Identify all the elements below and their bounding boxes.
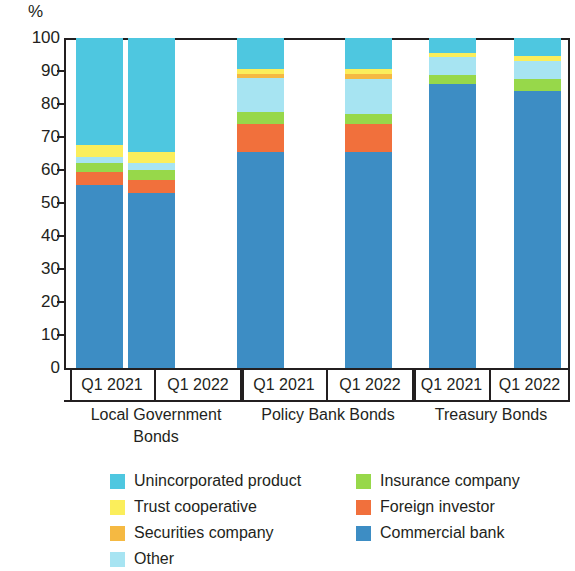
- legend-column-right: Insurance companyForeign investorCommerc…: [356, 468, 520, 546]
- bar-segment: [76, 163, 123, 171]
- bar-segment: [128, 170, 175, 180]
- x-axis-group-label: Local Government Bonds: [70, 404, 242, 448]
- legend-item[interactable]: Insurance company: [356, 468, 520, 494]
- bar-stack: [345, 38, 392, 368]
- bar-stack: [429, 38, 476, 368]
- y-axis-tick-mark: [57, 202, 65, 204]
- bar-stack: [128, 38, 175, 368]
- y-axis-tick-mark: [57, 136, 65, 138]
- y-axis-tick-mark: [57, 70, 65, 72]
- bar-segment: [514, 91, 561, 368]
- legend-color-swatch: [356, 474, 371, 489]
- legend-color-swatch: [356, 526, 371, 541]
- bar-segment: [76, 185, 123, 368]
- legend-item-label: Trust cooperative: [134, 498, 257, 516]
- y-axis-tick-mark: [57, 169, 65, 171]
- y-axis: 1009080706050403020100: [0, 0, 60, 558]
- bar-segment: [76, 157, 123, 164]
- x-axis-period-label: Q1 2022: [491, 370, 568, 400]
- y-axis-tick-mark: [57, 235, 65, 237]
- y-axis-tick-label: 50: [16, 194, 60, 211]
- legend-item[interactable]: Other: [110, 546, 301, 571]
- x-axis-period-label: Q1 2021: [242, 370, 328, 400]
- bar-segment: [128, 38, 175, 152]
- bar-segment: [128, 193, 175, 368]
- x-axis-group-separator: [242, 370, 244, 400]
- legend-color-swatch: [356, 500, 371, 515]
- x-axis-period-label: Q1 2021: [414, 370, 491, 400]
- y-axis-tick-label: 10: [16, 326, 60, 343]
- y-axis-tick-label: 40: [16, 227, 60, 244]
- bar-segment: [429, 57, 476, 75]
- y-axis-tick-label: 100: [16, 29, 60, 46]
- bar-segment: [345, 124, 392, 152]
- bar-segment: [429, 38, 476, 53]
- group-divider-rule: [64, 400, 570, 402]
- bar-segment: [429, 84, 476, 368]
- bar-segment: [345, 79, 392, 114]
- legend-color-swatch: [110, 526, 125, 541]
- plot-area: [64, 38, 570, 368]
- legend-item-label: Foreign investor: [380, 498, 495, 516]
- bar-stack: [514, 38, 561, 368]
- bar-segment: [514, 79, 561, 91]
- legend-item[interactable]: Unincorporated product: [110, 468, 301, 494]
- legend-color-swatch: [110, 474, 125, 489]
- bar-segment: [237, 38, 284, 69]
- bar-segment: [128, 152, 175, 164]
- bar-segment: [345, 152, 392, 368]
- bar-segment: [76, 38, 123, 145]
- y-axis-tick-label: 0: [16, 359, 60, 376]
- y-axis-tick-mark: [57, 103, 65, 105]
- bar-segment: [345, 38, 392, 69]
- y-axis-tick-label: 90: [16, 62, 60, 79]
- chart-legend: Unincorporated productTrust cooperativeS…: [110, 468, 570, 558]
- legend-column-left: Unincorporated productTrust cooperativeS…: [110, 468, 301, 571]
- bar-segment: [237, 124, 284, 152]
- y-axis-tick-label: 20: [16, 293, 60, 310]
- y-axis-tick-mark: [57, 268, 65, 270]
- legend-item-label: Insurance company: [380, 472, 520, 490]
- legend-item[interactable]: Foreign investor: [356, 494, 520, 520]
- legend-color-swatch: [110, 500, 125, 515]
- bar-segment: [237, 112, 284, 124]
- y-axis-tick-label: 60: [16, 161, 60, 178]
- bar-segment: [128, 163, 175, 170]
- y-axis-tick-label: 70: [16, 128, 60, 145]
- bar-segment: [345, 114, 392, 124]
- y-axis-tick-label: 80: [16, 95, 60, 112]
- legend-item[interactable]: Trust cooperative: [110, 494, 301, 520]
- bar-segment: [76, 172, 123, 185]
- bar-segment: [514, 61, 561, 79]
- x-axis-period-label: Q1 2022: [328, 370, 414, 400]
- bar-stack: [76, 38, 123, 368]
- bar-stack: [237, 38, 284, 368]
- x-axis-group-label: Policy Bank Bonds: [242, 404, 414, 426]
- legend-item[interactable]: Securities company: [110, 520, 301, 546]
- bar-segment: [429, 75, 476, 84]
- y-axis-tick-mark: [57, 301, 65, 303]
- bar-segment: [237, 78, 284, 113]
- bar-segment: [128, 180, 175, 193]
- x-axis-group-separator: [414, 370, 416, 400]
- x-axis-period-label: Q1 2021: [70, 370, 156, 400]
- y-axis-tick-mark: [57, 334, 65, 336]
- legend-item-label: Other: [134, 550, 174, 568]
- y-axis-tick-label: 30: [16, 260, 60, 277]
- x-axis-categories: Q1 2021Q1 2022Local Government BondsQ1 2…: [64, 370, 570, 458]
- x-axis-group-separator: [568, 370, 570, 400]
- legend-item-label: Unincorporated product: [134, 472, 301, 490]
- x-axis-period-label: Q1 2022: [156, 370, 242, 400]
- legend-item-label: Securities company: [134, 524, 274, 542]
- x-axis-group-separator: [70, 370, 72, 400]
- legend-item[interactable]: Commercial bank: [356, 520, 520, 546]
- bar-segment: [76, 145, 123, 157]
- bar-segment: [237, 152, 284, 368]
- legend-color-swatch: [110, 552, 125, 567]
- bar-segment: [514, 38, 561, 56]
- x-axis-group-label: Treasury Bonds: [414, 404, 568, 426]
- legend-item-label: Commercial bank: [380, 524, 504, 542]
